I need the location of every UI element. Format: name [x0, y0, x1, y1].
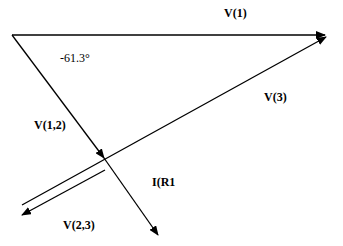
v3-label: V(3)	[264, 91, 287, 103]
v12-phasor	[12, 35, 104, 158]
ir1-label: I(R1	[152, 176, 175, 188]
v1-label: V(1)	[224, 7, 247, 19]
v12-label: V(1,2)	[34, 119, 66, 131]
ir1-phasor	[104, 158, 158, 235]
angle-label: -61.3°	[60, 52, 90, 64]
v23-label: V(2,3)	[63, 219, 95, 231]
v23-phasor	[22, 170, 105, 215]
